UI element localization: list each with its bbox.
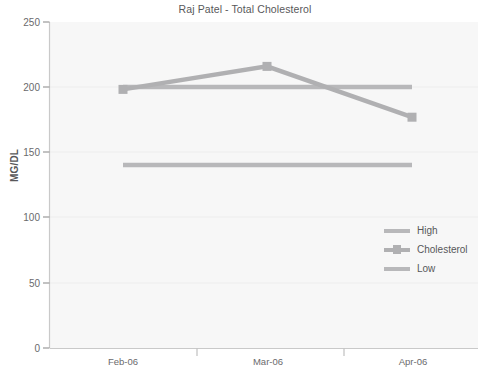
legend-item-low[interactable]: Low (384, 259, 488, 278)
legend-item-cholesterol[interactable]: Cholesterol (384, 240, 488, 259)
y-axis-line (43, 22, 50, 348)
x-tick-label-apr: Apr-06 (399, 356, 428, 367)
chart-canvas (0, 0, 490, 379)
cholesterol-line-chart: Raj Patel - Total Cholesterol MG/DL 250 … (0, 0, 490, 379)
legend-label-cholesterol: Cholesterol (417, 244, 468, 255)
data-point-marker (408, 113, 417, 122)
legend-swatch-high-icon (384, 229, 410, 233)
legend-swatch-cholesterol-icon (384, 248, 410, 252)
legend-swatch-low-icon (384, 267, 410, 271)
legend-label-high: High (417, 225, 438, 236)
x-axis-line (50, 349, 478, 357)
x-tick-label-feb: Feb-06 (108, 356, 138, 367)
legend-label-low: Low (417, 263, 435, 274)
chart-legend: High Cholesterol Low (384, 221, 488, 278)
x-tick-label-mar: Mar-06 (253, 356, 283, 367)
legend-item-high[interactable]: High (384, 221, 488, 240)
data-point-marker (119, 85, 128, 94)
data-point-marker (263, 62, 272, 71)
